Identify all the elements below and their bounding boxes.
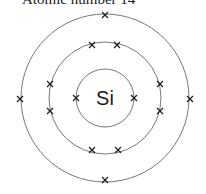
bohr-model-diagram: Si	[0, 0, 206, 194]
electron-icon	[102, 12, 108, 18]
electron-icon	[187, 96, 193, 102]
electron-icon	[89, 42, 95, 48]
electron-icon	[17, 96, 23, 102]
element-symbol: Si	[96, 87, 114, 109]
